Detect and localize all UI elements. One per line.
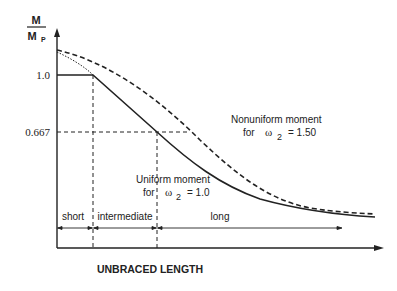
uniform-curve (57, 75, 375, 217)
arrow-icon (152, 227, 156, 230)
arrow-icon (94, 227, 98, 230)
arrow-icon (88, 227, 92, 230)
omega-subscript: 2 (277, 132, 282, 142)
region-short-label: short (62, 211, 84, 222)
y-tick-0667: 0.667 (25, 126, 50, 138)
omega-subscript: 2 (176, 192, 181, 202)
arrow-icon (58, 227, 62, 230)
nonuniform-label-for: for (243, 127, 255, 138)
y-tick-1: 1.0 (36, 69, 50, 81)
y-label-denominator: M (27, 30, 36, 42)
region-intermediate-label: intermediate (97, 211, 152, 222)
y-label-subscript: P (41, 36, 46, 43)
x-axis-arrow-icon (374, 245, 384, 251)
nonuniform-label: Nonuniform moment for ω 2 = 1.50 (231, 114, 322, 142)
nonuniform-value: = 1.50 (288, 127, 317, 138)
nonuniform-label-line1: Nonuniform moment (231, 114, 322, 125)
omega-symbol: ω (265, 126, 272, 138)
uniform-value: = 1.0 (187, 187, 210, 198)
region-arrows (57, 227, 342, 230)
y-axis-label: M M P (27, 14, 46, 43)
nonuniform-curve (57, 50, 375, 214)
y-axis-arrow-icon (54, 28, 60, 37)
chart: M M P 1.0 0.667 Nonuniform moment for ω … (0, 0, 397, 291)
uniform-label: Uniform moment for ω 2 = 1.0 (136, 174, 210, 202)
region-long-label: long (211, 211, 230, 222)
uniform-label-line1: Uniform moment (136, 174, 210, 185)
uniform-label-for: for (143, 187, 155, 198)
y-label-numerator: M (31, 14, 40, 26)
x-axis-label: UNBRACED LENGTH (97, 263, 203, 275)
arrow-icon (337, 227, 342, 230)
omega-symbol: ω (165, 186, 172, 198)
arrow-icon (158, 227, 162, 230)
